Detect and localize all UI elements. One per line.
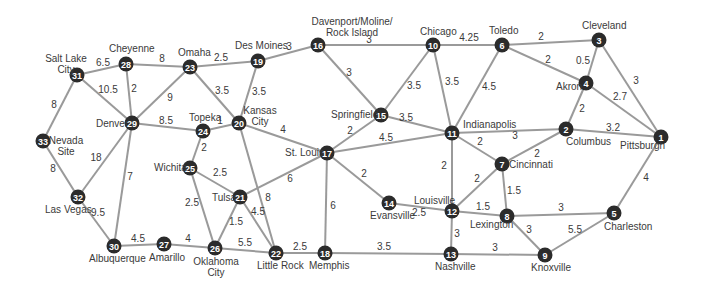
city-label: Site	[57, 146, 75, 157]
node-number: 18	[320, 249, 330, 259]
edge-6-3	[502, 40, 599, 45]
city-label: Charleston	[604, 221, 652, 232]
edge-weight: 2	[579, 103, 585, 114]
city-label: Topeka	[189, 112, 222, 123]
node-number: 3	[596, 36, 601, 46]
edge-weight: 2.7	[613, 91, 627, 102]
edge-weight: 3	[492, 242, 498, 253]
edge-weight: 3	[633, 75, 639, 86]
node-13: 13	[444, 247, 459, 262]
edge-weight: 0.5	[576, 55, 590, 66]
city-label: Nevada	[49, 135, 84, 146]
node-23: 23	[183, 60, 198, 75]
edge-weight: 3.5	[407, 80, 421, 91]
edge-weight: 3.5	[252, 86, 266, 97]
edge-weight: 2	[441, 160, 447, 171]
city-label: Knoxville	[531, 262, 571, 273]
edge-10-11	[433, 45, 452, 133]
edge-weight: 18	[90, 152, 102, 163]
edge-27-26	[164, 244, 215, 248]
edge-17-14	[327, 153, 389, 203]
city-label: Cincinnati	[509, 159, 553, 170]
node-number: 33	[38, 137, 48, 147]
edge-31-29	[77, 75, 132, 123]
node-number: 26	[210, 244, 220, 254]
node-20: 20	[232, 116, 247, 131]
node-number: 22	[271, 249, 281, 259]
edge-weight: 3	[526, 224, 532, 235]
edge-weight: 3.5	[215, 85, 229, 96]
city-label: Wichita	[154, 162, 187, 173]
edge-weight: 3	[558, 202, 564, 213]
node-22: 22	[269, 246, 284, 261]
edge-17-18	[325, 153, 327, 253]
node-30: 30	[107, 239, 122, 254]
node-5: 5	[607, 206, 622, 221]
node-24: 24	[196, 124, 211, 139]
edge-weight: 8	[159, 53, 165, 64]
edge-weight: 2.5	[213, 167, 227, 178]
edge-weight: 2	[361, 168, 367, 179]
city-label: Springfield	[331, 109, 378, 120]
edge-29-32	[78, 123, 132, 197]
node-9: 9	[538, 248, 553, 263]
city-label: Des Moines	[235, 40, 288, 51]
edge-weight: 4.25	[459, 32, 479, 43]
edge-weight: 2	[201, 142, 207, 153]
edge-13-9	[451, 254, 545, 255]
city-label: City	[57, 64, 74, 75]
edge-weight: 1.5	[507, 185, 521, 196]
edge-weight: 3.5	[377, 241, 391, 252]
edge-weight: 6.5	[96, 57, 110, 68]
edge-weight: 6	[287, 173, 293, 184]
node-number: 24	[198, 127, 208, 137]
edge-31-33	[43, 75, 77, 141]
city-label: Tulsa	[212, 192, 237, 203]
edge-weight: 10.5	[98, 84, 118, 95]
node-number: 10	[428, 41, 438, 51]
city-label: Albuquerque	[89, 253, 146, 264]
edge-26-22	[215, 248, 276, 253]
node-number: 14	[384, 199, 394, 209]
edge-15-11	[381, 115, 452, 133]
city-label: Cheyenne	[109, 43, 155, 54]
edge-weight: 1.5	[229, 216, 243, 227]
node-11: 11	[445, 126, 460, 141]
node-number: 9	[542, 251, 547, 261]
node-26: 26	[208, 241, 223, 256]
edge-29-30	[114, 123, 132, 246]
city-label: Davenport/Moline/	[311, 16, 392, 27]
edge-weight: 4	[185, 233, 191, 244]
edge-weight: 2	[347, 125, 353, 136]
edge-weight: 3.2	[606, 122, 620, 133]
city-label: City	[251, 116, 268, 127]
node-number: 19	[253, 57, 263, 67]
city-label: Toledo	[489, 25, 519, 36]
edge-weight: 2	[534, 148, 540, 159]
edge-weight: 3	[454, 228, 460, 239]
edge-weight: 2	[131, 83, 137, 94]
node-27: 27	[157, 237, 172, 252]
city-label: Chicago	[420, 26, 457, 37]
edge-weight: 3.5	[445, 76, 459, 87]
edge-weight: 4.5	[379, 132, 393, 143]
city-label: St. Louis	[285, 147, 324, 158]
node-number: 4	[583, 79, 588, 89]
edge-weight: 9	[167, 92, 173, 103]
edge-weight: 2	[538, 31, 544, 42]
edge-weight: 6	[330, 200, 336, 211]
city-label: Amarillo	[149, 252, 186, 263]
city-label: Nashville	[435, 261, 476, 272]
edge-weight: 8	[50, 163, 56, 174]
edge-18-13	[325, 253, 451, 254]
route-graph: 6.582.5334.25210.5293.53.533.53.54.520.5…	[0, 0, 704, 289]
node-number: 6	[499, 41, 504, 51]
node-28: 28	[119, 57, 134, 72]
edge-weight: 4	[280, 124, 286, 135]
city-label: Columbus	[566, 136, 611, 147]
edge-weight: 2.5	[214, 52, 228, 63]
city-label: Salt Lake	[45, 53, 87, 64]
city-label: Little Rock	[257, 260, 305, 271]
edge-weight: 5.5	[238, 237, 252, 248]
edge-weight: 4.5	[482, 81, 496, 92]
